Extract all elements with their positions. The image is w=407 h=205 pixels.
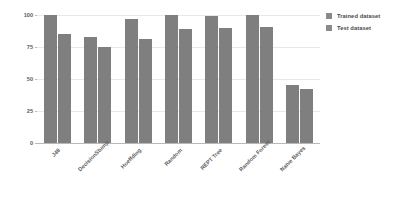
x-axis-label: Random Forest bbox=[238, 147, 263, 172]
bar[interactable] bbox=[44, 15, 57, 143]
bar[interactable] bbox=[125, 19, 138, 143]
y-tick-label-25: 25 bbox=[14, 108, 33, 114]
bar[interactable] bbox=[139, 39, 152, 143]
bar-group bbox=[246, 15, 273, 143]
bar-group bbox=[84, 15, 111, 143]
bar[interactable] bbox=[219, 28, 232, 143]
bar[interactable] bbox=[58, 34, 71, 143]
plot-area bbox=[37, 15, 320, 143]
bar-group bbox=[205, 15, 232, 143]
legend-label-test: Test dataset bbox=[337, 25, 371, 31]
y-tick-label-100: 100 bbox=[14, 12, 33, 18]
x-axis-label: Random bbox=[157, 147, 182, 172]
bar[interactable] bbox=[98, 47, 111, 143]
bar[interactable] bbox=[205, 16, 218, 143]
bar-group bbox=[44, 15, 71, 143]
x-axis-label: Hoeffding bbox=[117, 147, 142, 172]
bar-group bbox=[286, 15, 313, 143]
bar-group bbox=[165, 15, 192, 143]
y-tick-label-50: 50 bbox=[14, 76, 33, 82]
x-axis-label: Naïve Bayes bbox=[279, 147, 304, 172]
bar[interactable] bbox=[246, 15, 259, 143]
legend-swatch-icon-test bbox=[326, 25, 332, 31]
bar[interactable] bbox=[260, 27, 273, 143]
bar-chart: 100 75 50 25 0 J48DecisionStumpHoeffding… bbox=[0, 0, 407, 205]
legend-swatch-icon-trained bbox=[326, 13, 332, 19]
y-tick-label-0: 0 bbox=[14, 140, 33, 146]
legend-label-trained: Trained dataset bbox=[337, 13, 380, 19]
x-axis-label: J48 bbox=[36, 147, 61, 172]
bar[interactable] bbox=[84, 37, 97, 143]
bar[interactable] bbox=[165, 15, 178, 143]
bar[interactable] bbox=[300, 89, 313, 143]
y-tick-label-75: 75 bbox=[14, 44, 33, 50]
bar[interactable] bbox=[286, 85, 299, 143]
gridline-baseline-0 bbox=[37, 143, 320, 144]
legend: Trained dataset Test dataset bbox=[326, 13, 380, 37]
legend-item-trained[interactable]: Trained dataset bbox=[326, 13, 380, 19]
x-axis-label: DecisionStump bbox=[76, 147, 101, 172]
x-axis-label: REPT Tree bbox=[198, 147, 223, 172]
bar[interactable] bbox=[179, 29, 192, 143]
legend-item-test[interactable]: Test dataset bbox=[326, 25, 380, 31]
bar-group bbox=[125, 15, 152, 143]
